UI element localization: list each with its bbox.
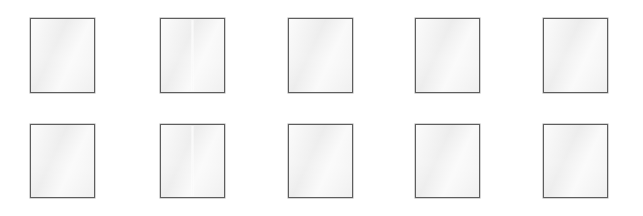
placeholder-tile[interactable] [160, 124, 225, 198]
placeholder-tile-label [289, 125, 290, 126]
placeholder-tile-label [544, 19, 545, 20]
placeholder-tile[interactable] [30, 18, 95, 93]
placeholder-tile-label [544, 125, 545, 126]
placeholder-tile-label [416, 125, 417, 126]
placeholder-tile[interactable] [30, 124, 95, 198]
placeholder-tile-label [31, 19, 32, 20]
placeholder-tile-label [31, 125, 32, 126]
placeholder-tile-label [161, 19, 162, 20]
placeholder-tile[interactable] [543, 124, 608, 198]
placeholder-tile[interactable] [160, 18, 225, 93]
placeholder-tile-label [289, 19, 290, 20]
placeholder-tile-label [416, 19, 417, 20]
placeholder-tile[interactable] [288, 18, 353, 93]
placeholder-tile[interactable] [415, 124, 480, 198]
placeholder-tile-label [161, 125, 162, 126]
placeholder-grid [0, 0, 643, 216]
placeholder-tile[interactable] [415, 18, 480, 93]
placeholder-tile[interactable] [288, 124, 353, 198]
placeholder-tile[interactable] [543, 18, 608, 93]
